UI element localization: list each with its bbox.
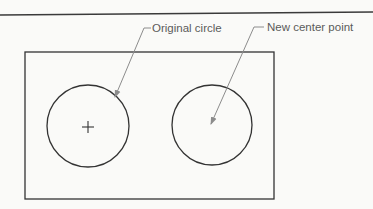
new-circle [172, 85, 252, 165]
header-rule [0, 12, 373, 15]
diagram-canvas: Original circle New center point [0, 0, 373, 209]
leader-arrow [115, 28, 144, 97]
callout-label: New center point [267, 21, 354, 33]
callout-new-center-point: New center point [211, 21, 354, 124]
leader-arrow [211, 27, 254, 124]
center-cross-icon [82, 121, 94, 133]
callout-label: Original circle [152, 22, 222, 34]
frame-rectangle [25, 52, 274, 199]
